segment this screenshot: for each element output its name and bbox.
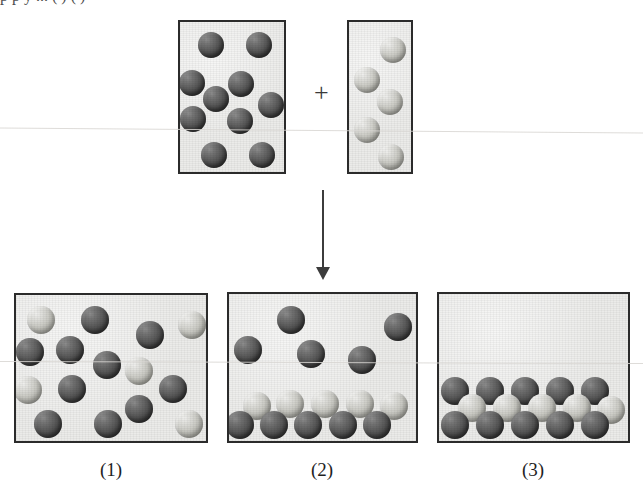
dark-sphere — [198, 32, 224, 58]
dark-sphere — [329, 411, 357, 439]
dark-sphere — [249, 142, 275, 168]
light-sphere — [14, 376, 42, 404]
product-panel-3 — [437, 292, 630, 443]
dark-sphere — [363, 411, 391, 439]
dark-sphere — [81, 306, 109, 334]
dark-sphere — [56, 336, 84, 364]
product-panel-1 — [14, 293, 208, 443]
light-sphere — [380, 37, 406, 63]
dark-sphere — [125, 395, 153, 423]
light-sphere — [27, 306, 55, 334]
figure-canvas: p p y ... ( ) ( ) + (1)(2)(3) — [0, 0, 643, 492]
dark-sphere — [58, 375, 86, 403]
dark-sphere — [581, 411, 609, 439]
light-sphere — [175, 410, 203, 438]
dark-sphere — [228, 71, 254, 97]
dark-sphere — [159, 375, 187, 403]
reaction-arrow-head — [316, 267, 330, 280]
clipped-header-text: p p y ... ( ) ( ) — [0, 0, 643, 14]
dark-sphere — [227, 411, 254, 439]
panel-caption-3: (3) — [508, 459, 558, 481]
light-sphere — [354, 67, 380, 93]
dark-sphere — [277, 306, 305, 334]
light-sphere — [377, 89, 403, 115]
dark-sphere — [384, 313, 412, 341]
dark-sphere — [348, 346, 376, 374]
dark-sphere — [476, 411, 504, 439]
plus-operator: + — [314, 80, 329, 106]
dark-sphere — [93, 351, 121, 379]
light-sphere — [178, 311, 206, 339]
dark-sphere — [546, 411, 574, 439]
dark-sphere — [34, 410, 62, 438]
panel-caption-2: (2) — [297, 459, 347, 481]
scan-line — [0, 127, 643, 133]
reaction-arrow-shaft — [322, 190, 324, 270]
dark-sphere — [136, 321, 164, 349]
dark-sphere — [260, 411, 288, 439]
dark-sphere — [441, 411, 469, 439]
light-sphere — [378, 144, 404, 170]
dark-sphere — [511, 411, 539, 439]
reactant-vessel-b — [347, 20, 413, 174]
dark-sphere — [294, 411, 322, 439]
dark-sphere — [246, 32, 272, 58]
dark-sphere — [201, 142, 227, 168]
reactant-vessel-a — [178, 20, 286, 174]
dark-sphere — [258, 92, 284, 118]
dark-sphere — [179, 70, 205, 96]
panel-caption-1: (1) — [86, 459, 136, 481]
clipped-header-text-value: p p y ... ( ) ( ) — [0, 0, 85, 5]
dark-sphere — [203, 86, 229, 112]
product-panel-2 — [227, 292, 418, 443]
dark-sphere — [94, 410, 122, 438]
dark-sphere — [297, 340, 325, 368]
dark-sphere — [234, 336, 262, 364]
